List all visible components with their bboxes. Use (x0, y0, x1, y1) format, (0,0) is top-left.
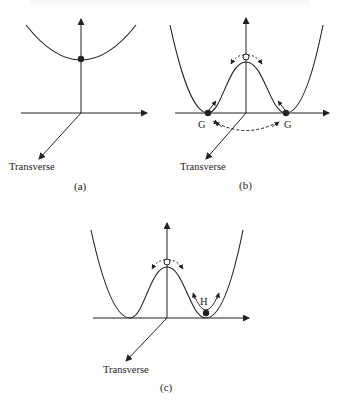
panel-a-transverse-label: Transverse (9, 161, 55, 172)
ground-state-dot-right (283, 110, 289, 116)
label-H: H (200, 296, 208, 307)
transverse-axis (126, 318, 167, 361)
panel-c-transverse-label: Transverse (103, 364, 149, 375)
panel-b-caption: (b) (239, 179, 252, 191)
panel-a (21, 19, 147, 159)
panel-c (91, 223, 249, 361)
transverse-axis (39, 113, 81, 159)
dashed-arrowhead-left (215, 122, 222, 127)
ground-state-dot (78, 56, 84, 62)
transverse-axis (206, 113, 246, 159)
panel-c-caption: (c) (160, 381, 172, 393)
label-G-right: G (284, 119, 292, 130)
panel-b-transverse-label: Transverse (180, 161, 226, 172)
label-G-left: G (198, 119, 206, 130)
ground-state-dot-left (205, 110, 211, 116)
diagram-canvas (0, 0, 337, 401)
state-H-dot (203, 310, 209, 316)
panel-b (170, 18, 329, 159)
panel-a-caption: (a) (74, 180, 86, 192)
potential-energy-figure: Transverse (a) Transverse (b) G G Transv… (0, 0, 337, 401)
dashed-transfer-path (213, 121, 280, 131)
excitation-arrow-right (278, 101, 285, 110)
